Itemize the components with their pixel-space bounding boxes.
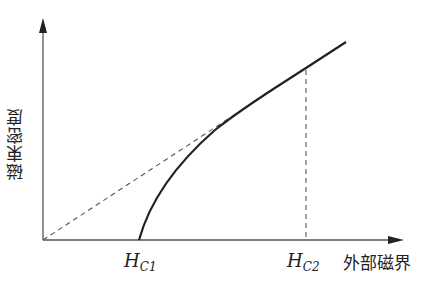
x-axis-arrow-icon <box>388 236 404 244</box>
hc1-sub: C1 <box>140 260 157 274</box>
hc2-main: H <box>287 250 303 271</box>
hc2-label: HC2 <box>287 250 320 274</box>
hc1-main: H <box>124 250 140 271</box>
hc1-label: HC1 <box>124 250 157 274</box>
magnetization-curve <box>139 42 346 240</box>
x-axis-label: 外部磁界 <box>343 249 411 274</box>
y-axis-label: 磁束密度 <box>6 108 28 180</box>
y-axis-arrow-icon <box>39 18 47 33</box>
hc2-sub: C2 <box>303 260 320 274</box>
